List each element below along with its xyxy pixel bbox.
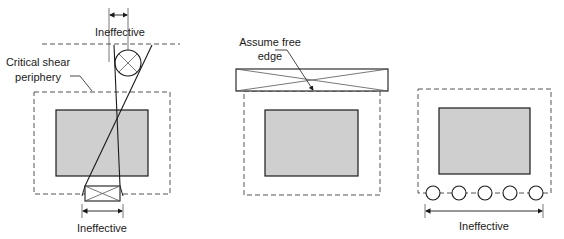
small-opening	[426, 186, 440, 200]
column	[265, 110, 358, 176]
panel-right: Ineffective	[418, 89, 551, 232]
top-ineffective-label: Ineffective	[95, 26, 145, 38]
panel-left: Ineffective Ineffective Critical	[6, 8, 180, 234]
small-opening	[478, 186, 492, 200]
small-opening	[503, 186, 517, 200]
punching-shear-openings-diagram: Ineffective Ineffective Critical	[0, 0, 564, 239]
panel-middle: Assume free edge	[236, 36, 388, 195]
column	[439, 108, 530, 174]
small-opening	[529, 186, 543, 200]
critical-shear-label-line2: periphery	[15, 71, 61, 83]
circular-opening	[115, 50, 141, 76]
right-ineffective-label: Ineffective	[459, 220, 509, 232]
critical-shear-label-line1: Critical shear	[6, 56, 71, 68]
edge-opening	[236, 69, 388, 91]
free-edge-label-line1: Assume free	[239, 36, 301, 48]
rectangular-opening	[85, 186, 120, 201]
column	[56, 110, 148, 176]
bottom-ineffective-label: Ineffective	[77, 222, 127, 234]
free-edge-label-line2: edge	[258, 50, 282, 62]
small-opening	[452, 186, 466, 200]
leader-line	[70, 76, 92, 91]
